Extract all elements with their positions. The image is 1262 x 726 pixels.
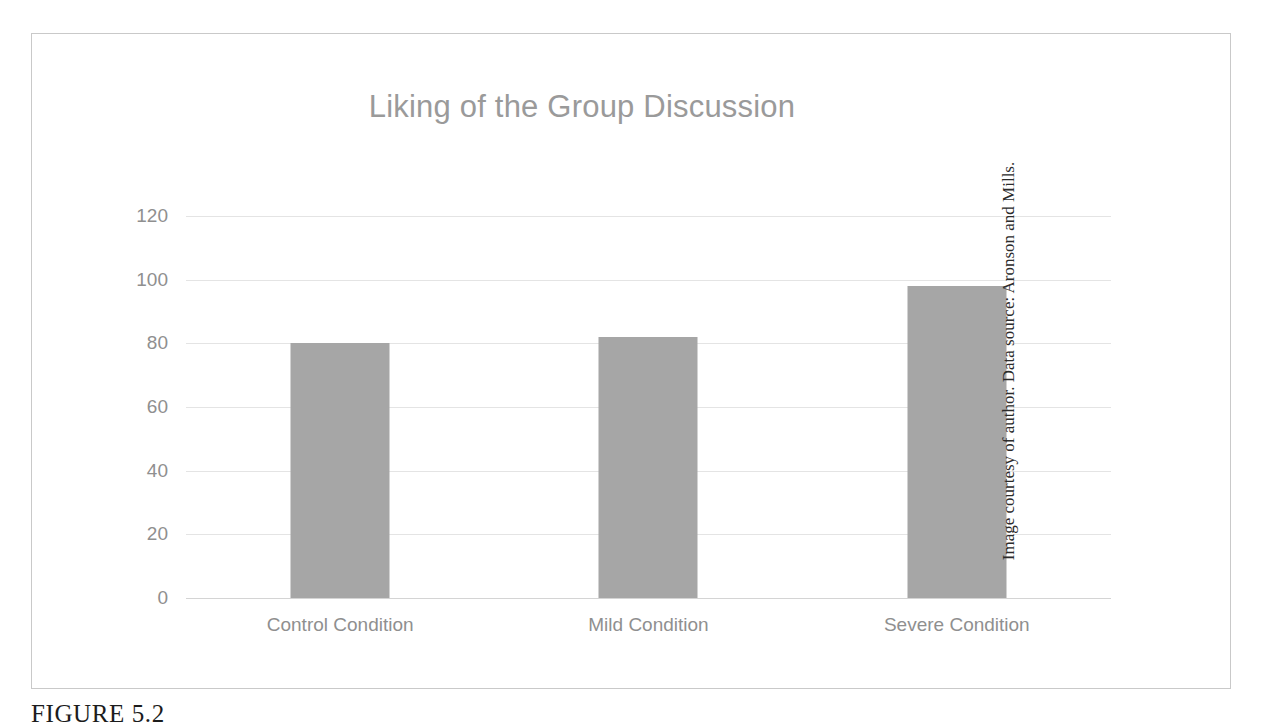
bar xyxy=(599,337,698,598)
x-axis-category-label: Mild Condition xyxy=(588,614,708,636)
x-axis-category-label: Severe Condition xyxy=(884,614,1030,636)
bar-band: Severe Condition xyxy=(803,216,1111,598)
x-axis-category-label: Control Condition xyxy=(267,614,414,636)
y-axis-tick-label: 120 xyxy=(136,205,168,227)
y-axis-tick-label: 20 xyxy=(147,523,168,545)
bar xyxy=(291,343,390,598)
bars-layer: Control ConditionMild ConditionSevere Co… xyxy=(186,216,1111,598)
image-credit-text: Image courtesy of author. Data source: A… xyxy=(999,162,1019,560)
bar-band: Control Condition xyxy=(186,216,494,598)
y-axis-tick-label: 80 xyxy=(147,332,168,354)
plot-area: 020406080100120 Control ConditionMild Co… xyxy=(186,216,1111,598)
figure-caption: FIGURE 5.2 xyxy=(31,700,165,726)
chart-title: Liking of the Group Discussion xyxy=(32,89,1132,125)
y-axis-tick-label: 0 xyxy=(157,587,168,609)
bar xyxy=(907,286,1006,598)
y-axis-tick-label: 40 xyxy=(147,460,168,482)
y-axis-tick-label: 60 xyxy=(147,396,168,418)
bar-band: Mild Condition xyxy=(494,216,802,598)
y-axis-tick-label: 100 xyxy=(136,269,168,291)
figure-frame: Liking of the Group Discussion 020406080… xyxy=(31,33,1231,689)
x-axis-line xyxy=(186,598,1111,599)
